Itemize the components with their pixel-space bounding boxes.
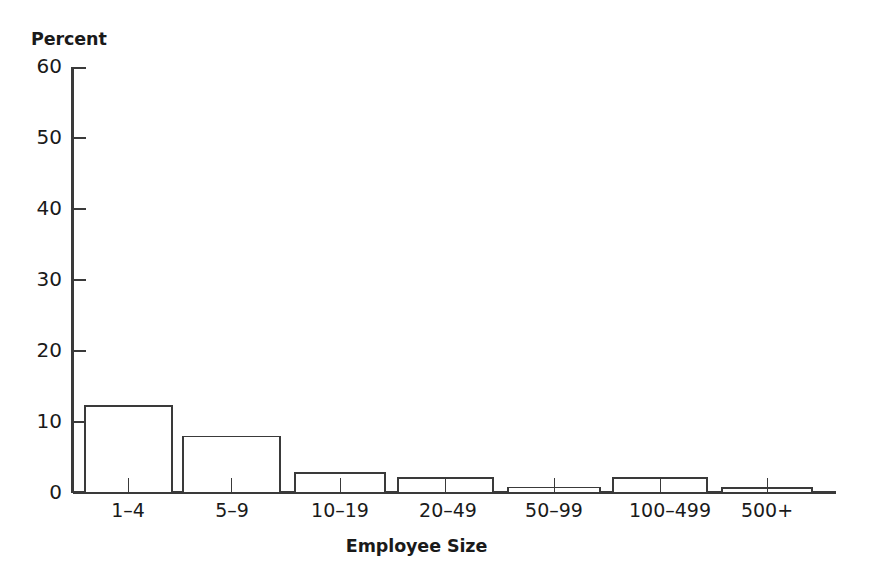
bar-chart: Percent 60 50 40 30 20 10 0 1–4 5–9 10–1… <box>0 0 869 583</box>
y-axis-ticks <box>73 68 87 422</box>
plot-area <box>0 0 869 583</box>
bar-series <box>85 406 812 493</box>
